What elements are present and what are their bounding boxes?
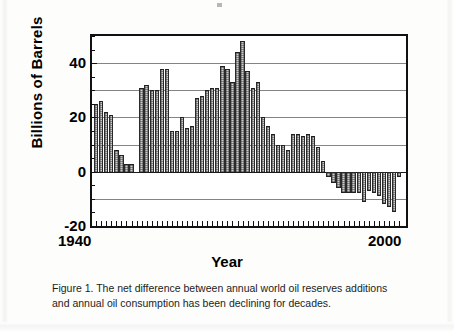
plot-area xyxy=(90,34,408,228)
bar xyxy=(351,172,355,194)
y-axis-title: Billions of Barrels xyxy=(28,3,45,163)
bar xyxy=(306,134,310,172)
y-axis-tick-major xyxy=(92,226,97,227)
x-axis-tick xyxy=(152,221,153,226)
x-axis-tick xyxy=(177,221,178,226)
bar xyxy=(276,145,280,172)
y-axis-tick-major xyxy=(92,63,97,64)
x-axis-tick xyxy=(96,221,97,226)
y-axis-tick-label: -20 xyxy=(52,218,86,233)
bar xyxy=(114,150,118,172)
bar xyxy=(180,117,184,171)
x-axis-tick xyxy=(268,221,269,226)
x-axis-tick xyxy=(212,221,213,226)
y-axis-tick-major xyxy=(92,172,97,173)
y-axis-tick-minor xyxy=(92,212,95,213)
x-axis-tick-label-start: 1940 xyxy=(58,232,91,249)
y-axis-tick-minor xyxy=(92,90,95,91)
x-axis-tick xyxy=(318,221,319,226)
y-axis-tick-minor xyxy=(92,145,95,146)
x-axis-tick xyxy=(379,221,380,226)
x-axis-tick xyxy=(101,221,102,226)
gridline xyxy=(92,63,406,64)
bar xyxy=(124,164,128,172)
x-axis-tick xyxy=(227,221,228,226)
y-axis-tick-minor xyxy=(92,131,95,132)
bar xyxy=(220,66,224,172)
x-axis-tick xyxy=(303,221,304,226)
x-axis-tick xyxy=(222,221,223,226)
x-axis-tick xyxy=(263,221,264,226)
x-axis-tick-label-end: 2000 xyxy=(368,232,401,249)
caption-line-1: Figure 1. The net difference between ann… xyxy=(52,281,420,296)
x-axis-tick xyxy=(197,221,198,226)
bar xyxy=(286,150,290,172)
x-axis-tick xyxy=(232,221,233,226)
bar xyxy=(210,88,214,172)
x-axis-tick xyxy=(182,221,183,226)
x-axis-tick xyxy=(248,221,249,226)
y-axis-tick-label: 0 xyxy=(52,164,86,179)
bar xyxy=(129,164,133,172)
caption-line-2: and annual oil consumption has been decl… xyxy=(52,296,420,311)
x-axis-tick xyxy=(253,221,254,226)
y-axis-tick-minor xyxy=(92,50,95,51)
page-edge-right xyxy=(446,0,454,332)
x-axis-tick xyxy=(278,221,279,226)
bar xyxy=(266,126,270,172)
x-axis-tick xyxy=(217,221,218,226)
x-axis-tick xyxy=(243,221,244,226)
bar xyxy=(301,136,305,171)
x-axis-tick xyxy=(349,221,350,226)
bar xyxy=(185,128,189,171)
bar xyxy=(99,101,103,172)
x-axis-tick xyxy=(258,221,259,226)
page-edge-bottom xyxy=(0,322,454,332)
x-axis-tick xyxy=(207,221,208,226)
x-axis-tick xyxy=(384,221,385,226)
x-axis-tick xyxy=(202,221,203,226)
figure-container: Billions of Barrels -2002040 1940 2000 Y… xyxy=(0,0,454,332)
x-axis-tick xyxy=(344,221,345,226)
bar xyxy=(387,172,391,207)
bar xyxy=(271,134,275,172)
bar xyxy=(331,172,335,183)
y-axis-tick-minor xyxy=(92,185,95,186)
x-axis-tick xyxy=(364,221,365,226)
bar xyxy=(240,41,244,171)
x-axis-tick xyxy=(394,221,395,226)
bar xyxy=(245,71,249,171)
bar xyxy=(170,131,174,172)
x-axis-tick xyxy=(288,221,289,226)
bar xyxy=(392,172,396,213)
bar xyxy=(109,115,113,172)
y-axis-tick-minor xyxy=(92,199,95,200)
bar xyxy=(346,172,350,194)
x-axis-tick xyxy=(121,221,122,226)
bar xyxy=(230,82,234,172)
x-axis-tick xyxy=(369,221,370,226)
bar xyxy=(175,131,179,172)
x-axis-tick xyxy=(399,221,400,226)
bar xyxy=(296,134,300,172)
x-axis-tick xyxy=(283,221,284,226)
bar xyxy=(321,161,325,172)
bar xyxy=(362,172,366,202)
figure-caption: Figure 1. The net difference between ann… xyxy=(52,281,420,311)
bar xyxy=(367,172,371,191)
bar xyxy=(150,90,154,171)
x-axis-tick xyxy=(132,221,133,226)
x-axis-tick xyxy=(338,221,339,226)
y-axis-tick-minor xyxy=(92,36,95,37)
bar xyxy=(341,172,345,194)
x-axis-tick xyxy=(389,221,390,226)
bar xyxy=(155,90,159,171)
x-axis-tick xyxy=(354,221,355,226)
bar xyxy=(326,172,330,177)
x-axis-tick xyxy=(172,221,173,226)
x-axis-tick xyxy=(162,221,163,226)
bar xyxy=(251,88,255,172)
x-axis-tick xyxy=(142,221,143,226)
x-axis-tick xyxy=(192,221,193,226)
bar xyxy=(205,90,209,171)
